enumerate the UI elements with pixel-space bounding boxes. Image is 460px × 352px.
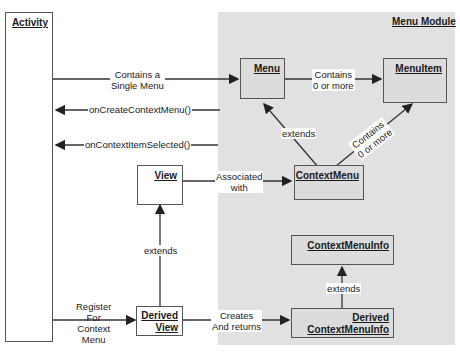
menuitem-box: MenuItem (383, 58, 447, 103)
contextmenu-box: ContextMenu (294, 165, 364, 200)
view-title: View (154, 170, 177, 182)
extends-view-label: extends (143, 245, 178, 256)
contains-single-menu-label: Contains aSingle Menu (110, 69, 165, 91)
view-box: View (137, 165, 183, 205)
on-context-item-selected-label: onContextItemSelected() (84, 139, 191, 150)
contextmenuinfo-box: ContextMenuInfo (291, 235, 394, 265)
derived-contextmenuinfo-title: DerivedContextMenuInfo (307, 312, 389, 336)
derived-view-box: DerivedView (136, 306, 183, 336)
contextmenu-title: ContextMenu (296, 170, 359, 182)
menuitem-title: MenuItem (395, 63, 442, 75)
on-create-context-menu-label: onCreateContextMenu() (88, 104, 192, 115)
derived-view-title: DerivedView (141, 310, 178, 334)
contains-zero-or-more-label: Contains0 or more (312, 69, 355, 91)
extends-menu-label: extends (281, 128, 316, 139)
activity-box: Activity (5, 12, 53, 342)
register-for-context-menu-label: RegisterForContextMenu (75, 301, 112, 345)
extends-contextmenuinfo-label: extends (326, 283, 361, 294)
menu-title: Menu (254, 63, 280, 75)
activity-title: Activity (12, 17, 48, 29)
associated-with-label: Associatedwith (215, 171, 263, 193)
creates-and-returns-label: CreatesAnd returns (211, 310, 262, 332)
contextmenuinfo-title: ContextMenuInfo (307, 240, 389, 252)
derived-contextmenuinfo-box: DerivedContextMenuInfo (291, 308, 394, 338)
menu-box: Menu (240, 58, 285, 99)
